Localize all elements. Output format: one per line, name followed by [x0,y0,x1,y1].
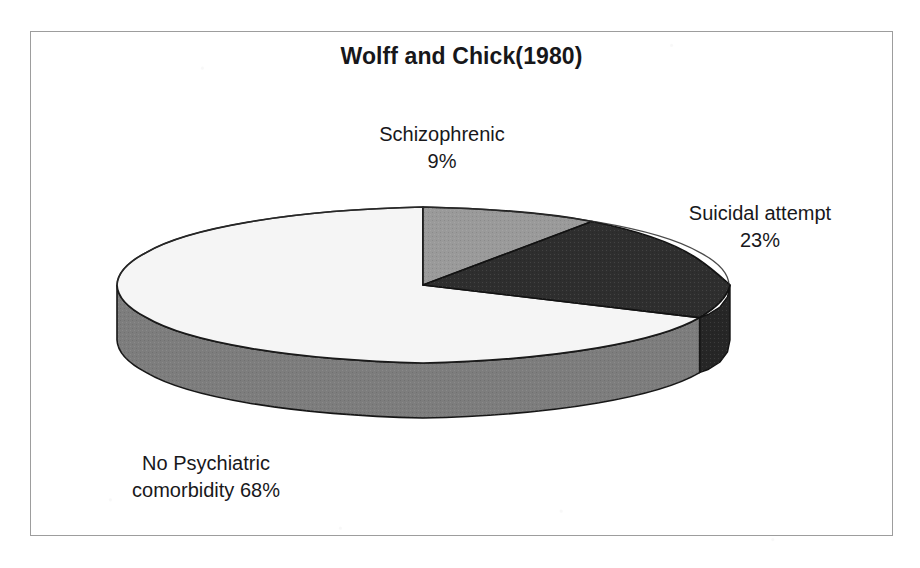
slice-label-suicidal: Suicidal attempt 23% [634,200,886,254]
pie-chart-figure: Wolff and Chick(1980) [0,0,920,568]
slice-label-schizophrenic: Schizophrenic 9% [322,121,562,175]
slice-label-no-psychiatric-comorbidity: No Psychiatric comorbidity 68% [66,450,346,504]
